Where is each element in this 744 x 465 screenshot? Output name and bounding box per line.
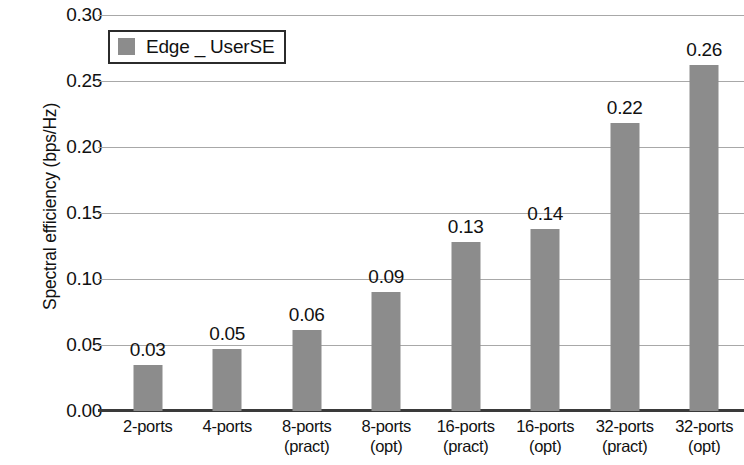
x-axis-category-line2: (pract)	[585, 436, 665, 456]
bar	[690, 65, 719, 411]
y-axis-tick-label: 0.00	[36, 401, 102, 420]
bar	[292, 330, 321, 411]
bar-group: 0.22	[585, 15, 665, 411]
y-axis-tick-mark	[98, 147, 108, 148]
bar-group: 0.09	[347, 15, 427, 411]
x-axis-category-line1: 8-ports	[282, 417, 331, 435]
x-axis-category-label: 8-ports(opt)	[347, 416, 427, 456]
x-axis-category-labels: 2-ports4-ports8-ports(pract)8-ports(opt)…	[108, 416, 744, 465]
bar-value-label: 0.03	[130, 340, 166, 359]
bar-group: 0.06	[267, 15, 347, 411]
x-axis-category-label: 32-ports(opt)	[665, 416, 744, 456]
x-axis-category-line2: (opt)	[665, 436, 744, 456]
x-axis-category-label: 32-ports(pract)	[585, 416, 665, 456]
y-axis-tick-label: 0.20	[36, 137, 102, 156]
x-axis-category-line1: 2-ports	[123, 417, 172, 435]
x-axis-category-line2: (pract)	[426, 436, 506, 456]
bar-value-label: 0.09	[368, 267, 404, 286]
bar	[372, 292, 401, 411]
plot-area: 0.030.050.060.090.130.140.220.26	[108, 15, 744, 411]
x-axis-category-line1: 32-ports	[675, 417, 733, 435]
bar-group: 0.03	[108, 15, 188, 411]
bar	[133, 365, 162, 411]
y-axis-tick-mark	[98, 279, 108, 280]
bar-value-label: 0.13	[448, 217, 484, 236]
bar-value-label: 0.14	[527, 204, 563, 223]
x-axis-category-line2: (opt)	[506, 436, 586, 456]
y-axis-tick-label: 0.10	[36, 269, 102, 288]
chart-legend: Edge _ UserSE	[108, 30, 286, 64]
x-axis-category-label: 4-ports	[188, 416, 268, 436]
bar-group: 0.05	[188, 15, 268, 411]
x-axis-category-line2: (opt)	[347, 436, 427, 456]
bar	[451, 242, 480, 411]
y-axis-tick-label: 0.25	[36, 71, 102, 90]
y-axis-tick-label: 0.30	[36, 5, 102, 24]
y-axis-tick-mark	[98, 409, 108, 412]
x-axis-category-label: 2-ports	[108, 416, 188, 436]
x-axis-category-line1: 8-ports	[362, 417, 411, 435]
bar	[610, 123, 639, 411]
bar	[213, 349, 242, 411]
x-axis-category-line1: 16-ports	[516, 417, 574, 435]
bar-value-label: 0.22	[607, 98, 643, 117]
x-axis-category-line1: 4-ports	[203, 417, 252, 435]
bar-chart-figure: Spectral efficiency (bps/Hz) 0.300.250.2…	[0, 0, 744, 465]
x-axis-category-label: 16-ports(opt)	[506, 416, 586, 456]
bar-group: 0.14	[506, 15, 586, 411]
x-axis-category-label: 8-ports(pract)	[267, 416, 347, 456]
y-axis-tick-mark	[98, 81, 108, 82]
bar-group: 0.13	[426, 15, 506, 411]
legend-label: Edge _ UserSE	[146, 37, 274, 56]
bar-value-label: 0.06	[289, 305, 325, 324]
bar-value-label: 0.26	[686, 40, 722, 59]
x-axis-category-line2: (pract)	[267, 436, 347, 456]
bar-value-label: 0.05	[209, 324, 245, 343]
bar-group: 0.26	[665, 15, 744, 411]
y-axis-tick-mark	[98, 213, 108, 214]
y-axis-tick-label: 0.05	[36, 335, 102, 354]
legend-swatch-icon	[118, 38, 135, 55]
x-axis-category-line1: 32-ports	[596, 417, 654, 435]
y-axis-tick-mark	[98, 15, 108, 16]
bar	[531, 229, 560, 411]
y-axis-tick-mark	[98, 345, 108, 346]
x-axis-category-label: 16-ports(pract)	[426, 416, 506, 456]
bar-series-edge-userse: 0.030.050.060.090.130.140.220.26	[108, 15, 744, 411]
y-axis-tick-label: 0.15	[36, 203, 102, 222]
y-axis-tick-labels: 0.300.250.200.150.100.050.00	[32, 0, 102, 465]
x-axis-category-line1: 16-ports	[437, 417, 495, 435]
